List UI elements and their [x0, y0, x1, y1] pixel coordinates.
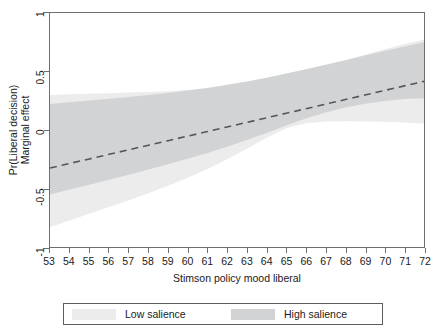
chart-legend: Low salience High salience	[63, 303, 383, 325]
x-axis-tick	[128, 248, 129, 253]
x-axis-tick	[168, 248, 169, 253]
x-axis-tick	[148, 248, 149, 253]
x-axis-title: Stimson policy mood liberal	[49, 272, 425, 284]
y-axis-tick-label: 1	[35, 12, 46, 42]
legend-label-low-salience: Low salience	[125, 308, 186, 320]
plot-area	[49, 12, 425, 248]
legend-item-high-salience: High salience	[223, 308, 382, 320]
x-axis-tick	[366, 248, 367, 253]
legend-label-high-salience: High salience	[284, 308, 347, 320]
x-axis-tick	[326, 248, 327, 253]
legend-swatch-high-salience	[231, 309, 275, 320]
y-axis-ticks: 10.50-0.5-1	[0, 0, 49, 260]
x-axis-tick	[425, 248, 426, 253]
x-axis-tick	[227, 248, 228, 253]
legend-item-low-salience: Low salience	[64, 308, 223, 320]
x-axis-tick	[267, 248, 268, 253]
x-axis-tick	[207, 248, 208, 253]
x-axis-tick	[89, 248, 90, 253]
x-axis-tick	[346, 248, 347, 253]
chart-figure: Pr(Liberal decision) Marginal effect 10.…	[0, 0, 445, 329]
x-axis-tick	[49, 248, 50, 253]
x-axis-tick	[385, 248, 386, 253]
y-axis-tick-label: 0.5	[35, 71, 46, 101]
x-axis-tick-labels: 5354555657585960616263646566676869707172	[0, 255, 445, 271]
y-axis-tick-label: 0	[35, 130, 46, 160]
x-axis-tick	[69, 248, 70, 253]
x-axis-tick	[286, 248, 287, 253]
x-axis-tick	[247, 248, 248, 253]
x-axis-tick	[306, 248, 307, 253]
plot-svg	[50, 13, 424, 247]
x-axis-tick-label: 72	[413, 255, 437, 267]
x-axis-tick	[188, 248, 189, 253]
y-axis-tick-label: -0.5	[35, 189, 46, 219]
x-axis-tick	[108, 248, 109, 253]
x-axis-tick	[405, 248, 406, 253]
legend-swatch-low-salience	[72, 309, 116, 320]
